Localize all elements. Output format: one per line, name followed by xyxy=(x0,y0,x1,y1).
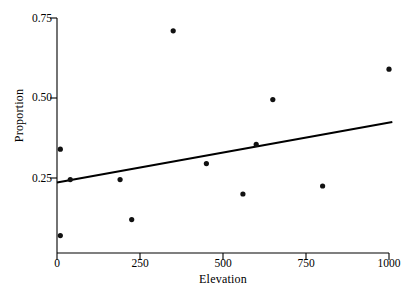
x-tick-label-1000: 1000 xyxy=(369,258,409,270)
data-point xyxy=(386,67,391,72)
x-tick-label-750: 750 xyxy=(286,258,326,270)
data-point xyxy=(204,161,209,166)
data-point xyxy=(68,177,73,182)
y-tick-label-075: 0.75 xyxy=(14,13,52,25)
x-tick-label-0: 0 xyxy=(37,258,77,270)
plot-canvas xyxy=(0,0,415,299)
regression-fit-line xyxy=(57,122,392,182)
x-axis-label: Elevation xyxy=(57,272,389,287)
x-tick-label-500: 500 xyxy=(203,258,243,270)
data-point xyxy=(254,142,259,147)
data-point xyxy=(240,191,245,196)
cropped-caption-strip xyxy=(0,292,415,299)
y-tick-label-group: 0.75 0.50 0.25 xyxy=(0,0,52,299)
data-point-group xyxy=(58,28,392,238)
scatter-plot-figure: Proportion 0.75 0.50 0.25 0 250 500 750 … xyxy=(0,0,415,299)
data-point xyxy=(320,183,325,188)
y-tick-label-025: 0.25 xyxy=(14,173,52,185)
data-point xyxy=(58,147,63,152)
data-point xyxy=(117,177,122,182)
fit-line xyxy=(57,122,392,182)
data-point xyxy=(129,217,134,222)
data-point xyxy=(270,97,275,102)
data-point xyxy=(58,233,63,238)
data-point xyxy=(171,28,176,33)
y-tick-label-050: 0.50 xyxy=(14,92,52,104)
x-tick-label-250: 250 xyxy=(120,258,160,270)
